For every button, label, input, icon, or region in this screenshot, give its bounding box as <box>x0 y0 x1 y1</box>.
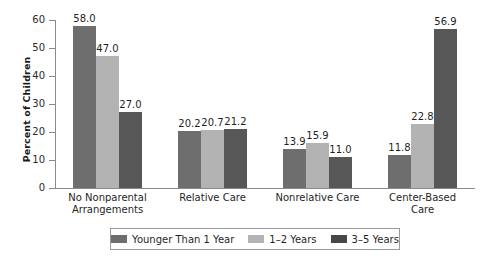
y-tick-label: 40 <box>5 71 45 81</box>
bar-value-label: 15.9 <box>300 130 335 141</box>
x-axis-line <box>55 188 475 189</box>
bar-value-label: 11.0 <box>323 144 358 155</box>
legend-swatch-icon <box>248 235 264 243</box>
legend-label: 1–2 Years <box>269 234 316 245</box>
legend-swatch-icon <box>331 235 347 243</box>
legend-swatch-icon <box>111 235 127 243</box>
legend-item: Younger Than 1 Year <box>111 234 234 245</box>
bar-value-label: 47.0 <box>90 43 125 54</box>
bar-value-label: 21.2 <box>218 116 253 127</box>
bar <box>201 130 224 188</box>
bar-value-label: 58.0 <box>67 13 102 24</box>
legend-item: 1–2 Years <box>248 234 316 245</box>
x-category-line: Arrangements <box>45 204 170 216</box>
bar-value-label: 56.9 <box>428 16 463 27</box>
bar-value-label: 27.0 <box>113 99 148 110</box>
legend-item: 3–5 Years <box>331 234 399 245</box>
legend-label: Younger Than 1 Year <box>132 234 234 245</box>
bar <box>224 129 247 188</box>
chart-legend: Younger Than 1 Year1–2 Years3–5 Years <box>110 228 400 250</box>
bar-chart: Percent of Children 6050403020100 58.047… <box>0 0 489 261</box>
bar <box>388 155 411 188</box>
y-tick-label: 10 <box>5 155 45 165</box>
bar <box>434 29 457 188</box>
bar <box>283 149 306 188</box>
plot-area: 58.047.027.020.220.721.213.915.911.011.8… <box>55 20 475 188</box>
bar <box>96 56 119 188</box>
x-category-line: Center-Based <box>360 192 485 204</box>
y-tick-mark <box>49 188 55 189</box>
x-category-line: Care <box>360 204 485 216</box>
y-tick-label: 20 <box>5 127 45 137</box>
y-tick-label: 30 <box>5 99 45 109</box>
legend-label: 3–5 Years <box>352 234 399 245</box>
bar <box>119 112 142 188</box>
bar <box>329 157 352 188</box>
y-tick-label: 50 <box>5 43 45 53</box>
bar <box>178 131 201 188</box>
y-tick-label: 0 <box>5 183 45 193</box>
x-category-label: Center-BasedCare <box>360 192 485 215</box>
y-tick-label: 60 <box>5 15 45 25</box>
bar <box>411 124 434 188</box>
